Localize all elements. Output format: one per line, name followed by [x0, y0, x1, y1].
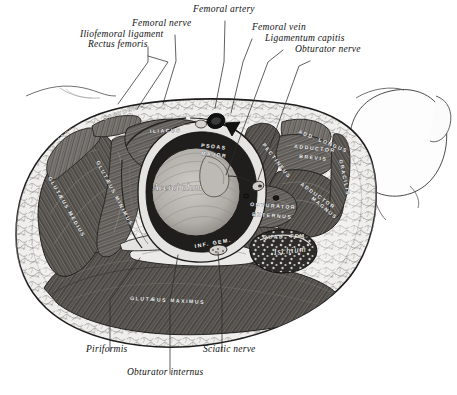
femoral-nerve-bundle: [196, 120, 207, 128]
bone-label-acetabulum: Acetabulum: [152, 182, 202, 192]
muscle-label-iliacus: ILIACUS: [150, 127, 181, 134]
callout-label-rectus-femoris: Rectus femoris: [88, 39, 148, 50]
anatomical-figure: TENS. FASCIÆSARTORIUSILIACUSPSOASMAJORGL…: [0, 0, 457, 395]
callout-label-femoral-nerve: Femoral nerve: [132, 18, 191, 29]
callout-label-obturator-internus: Obturator internus: [127, 367, 204, 378]
callout-label-femoral-vein: Femoral vein: [252, 22, 306, 33]
callout-label-ligamentum-capitis: Ligamentum capitis: [265, 33, 345, 44]
callout-label-sciatic-nerve: Sciatic nerve: [203, 344, 256, 355]
callout-label-obturator-nerve: Obturator nerve: [295, 44, 361, 55]
callout-label-femoral-artery: Femoral artery: [193, 4, 255, 15]
callout-label-piriformis: Piriformis: [86, 344, 128, 355]
hip-joint-transverse-section-drawing: TENS. FASCIÆSARTORIUSILIACUSPSOASMAJORGL…: [0, 0, 457, 395]
